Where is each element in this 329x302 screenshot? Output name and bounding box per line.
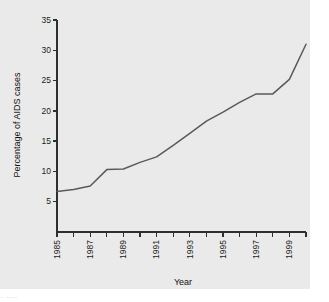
y-tick-label: 5 xyxy=(46,196,51,206)
x-tick-label: 1995 xyxy=(218,240,228,259)
chart-figure: 5101520253035 19851987198919911993199519… xyxy=(0,0,310,289)
y-tick-label: 15 xyxy=(42,136,52,146)
x-axis: 19851987198919911993199519971999 xyxy=(52,232,306,259)
x-tick-label: 1997 xyxy=(251,240,261,259)
y-tick-label: 25 xyxy=(42,75,52,85)
x-tick-label: 1989 xyxy=(118,240,128,259)
x-tick-label: 1991 xyxy=(151,240,161,259)
x-tick-label: 1985 xyxy=(52,240,62,259)
line-chart: 5101520253035 19851987198919911993199519… xyxy=(0,0,310,289)
y-tick-label: 35 xyxy=(42,15,52,25)
y-axis-title: Percentage of AIDS cases xyxy=(12,72,22,178)
x-tick-label: 1993 xyxy=(185,240,195,259)
data-series-line xyxy=(57,44,306,191)
x-tick-label: 1987 xyxy=(85,240,95,259)
y-axis: 5101520253035 xyxy=(42,15,57,232)
x-tick-label: 1999 xyxy=(284,240,294,259)
x-axis-title: Year xyxy=(174,277,192,287)
y-tick-label: 20 xyxy=(42,106,52,116)
y-tick-label: 10 xyxy=(42,166,52,176)
page-edge-artifact: · ···· xyxy=(0,292,120,302)
y-tick-label: 30 xyxy=(42,45,52,55)
